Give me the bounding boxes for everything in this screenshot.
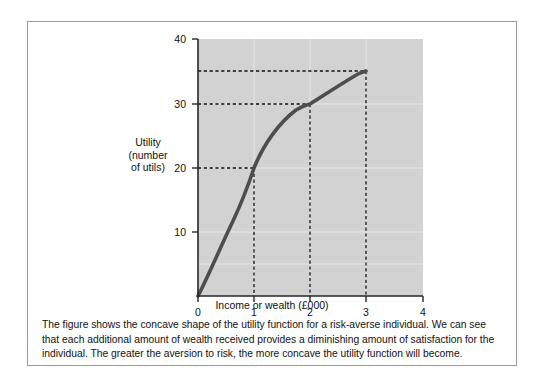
- y-axis-title-line-3: of utils): [106, 161, 190, 174]
- y-tick-label-40: 40: [158, 34, 186, 45]
- chart-region: 40 30 20 10 0 1 2 3 4 Utility (number of…: [28, 22, 516, 312]
- figure-caption: The figure shows the concave shape of th…: [42, 318, 504, 362]
- y-tick-label-10: 10: [158, 227, 186, 238]
- utility-function-chart: [28, 22, 516, 312]
- figure-frame: 40 30 20 10 0 1 2 3 4 Utility (number of…: [27, 21, 517, 366]
- x-axis-title: Income or wealth (£000): [28, 299, 516, 311]
- y-tick-label-30: 30: [158, 99, 186, 110]
- y-axis-title-line-1: Utility: [106, 136, 190, 149]
- y-axis-title-line-2: (number: [106, 149, 190, 162]
- y-axis-title: Utility (number of utils): [106, 136, 190, 174]
